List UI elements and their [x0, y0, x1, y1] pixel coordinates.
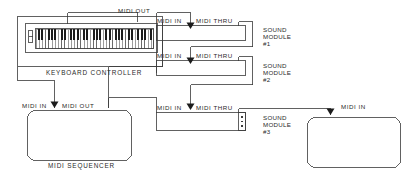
module-2-name-line-3: #2 [263, 76, 270, 83]
midi-sequencer-name-label: MIDI SEQUENCER [48, 163, 115, 169]
arrowhead-sequencer-in [51, 102, 59, 109]
module-3-name-line-3: #3 [263, 128, 270, 135]
sequencer-midi-out-label: MIDI OUT [62, 103, 94, 109]
module-1-midi-in-label: MIDI IN [157, 18, 182, 24]
sequencer-midi-in-label: MIDI IN [22, 103, 47, 109]
arrowhead-module-3-in [187, 104, 195, 111]
keyboard-controller-name-label: KEYBOARD CONTROLLER [46, 70, 142, 76]
module-3-jack-1 [241, 116, 243, 118]
module-3-jack-3 [241, 125, 243, 127]
module-1-name-line-3: #1 [263, 40, 270, 47]
keyboard-midi-out-label: MIDI OUT [118, 8, 150, 14]
module-2-midi-in-label: MIDI IN [157, 53, 182, 59]
module-1-midi-thru-label: MIDI THRU [196, 18, 233, 24]
module-2-midi-thru-label: MIDI THRU [196, 53, 233, 59]
module-3-midi-in-label: MIDI IN [157, 105, 182, 111]
diagram-canvas [0, 0, 410, 188]
module-3-jack-2 [241, 121, 243, 123]
final-device-midi-in-label: MIDI IN [341, 104, 366, 110]
midi-routing-diagram: MIDI OUT KEYBOARD CONTROLLER MIDI IN MID… [0, 0, 410, 188]
sound-module-3-outline [157, 113, 246, 131]
sound-module-1-outline [157, 26, 246, 41]
final-device-outline [308, 118, 401, 168]
sound-module-2-outline [157, 61, 246, 76]
midi-sequencer-outline [28, 111, 132, 161]
arrowhead-final-device-in [327, 109, 335, 116]
keyboard-keys [36, 29, 153, 48]
module-3-midi-thru-label: MIDI THRU [196, 105, 233, 111]
